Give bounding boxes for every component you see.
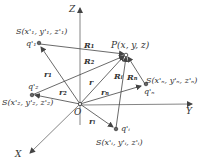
charge-q2-dot — [30, 93, 34, 97]
y-axis-label: Y — [186, 107, 192, 116]
qn-charge-label: q'ₙ — [144, 88, 155, 96]
r1-label: r₁ — [44, 70, 52, 78]
q1-charge-label: q'₁ — [26, 40, 37, 48]
Rn-label: Rₙ — [127, 73, 137, 81]
charge-q1-dot — [37, 41, 41, 45]
q1-coord-label: S(x'₁, y'₁, z'₁) — [16, 28, 67, 36]
R1-label: R₁ — [84, 41, 94, 49]
y-axis — [80, 104, 192, 105]
charge-qi-dot — [114, 127, 118, 131]
rn-label: rₙ — [101, 88, 109, 96]
R2-label: R₂ — [84, 57, 94, 65]
origin-label: O — [74, 108, 81, 117]
Ri-label: Rᵢ — [114, 72, 123, 80]
r2-label: r₂ — [59, 88, 67, 96]
charge-system-diagram: Z Y X O P(x, y, z) S(x'₁, y'₁, z'₁) q'₁ … — [0, 0, 199, 165]
vector-Ri — [116, 57, 126, 128]
vector-ri — [80, 104, 113, 127]
x-axis-label: X — [15, 150, 21, 159]
x-axis — [30, 104, 80, 153]
origin-point — [78, 102, 81, 105]
vector-rn — [80, 86, 141, 104]
field-point-label: P(x, y, z) — [111, 41, 149, 50]
q2-coord-label: S(x'₂, y'₂, z'₂) — [2, 99, 53, 107]
field-point-P — [124, 53, 128, 57]
qi-charge-label: q'ᵢ — [121, 125, 130, 133]
r-label: r — [89, 78, 93, 86]
qi-coord-label: S(x'ᵢ, y'ᵢ, z'ᵢ) — [96, 139, 143, 147]
ri-label: rᵢ — [89, 117, 95, 125]
z-axis-label: Z — [69, 5, 75, 14]
qn-coord-label: S(x'ₙ, y'ₙ, z'ₙ) — [146, 77, 197, 85]
q2-charge-label: q'₂ — [28, 83, 39, 91]
